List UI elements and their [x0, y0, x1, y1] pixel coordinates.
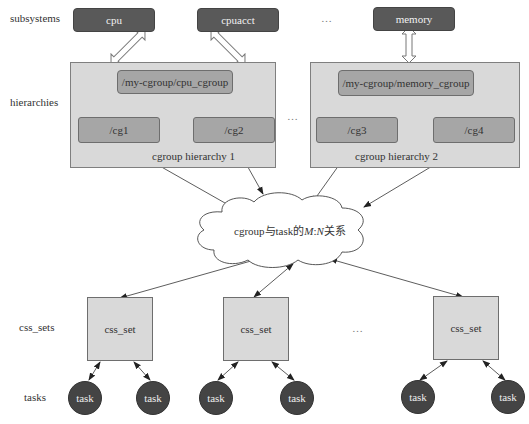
cloud-label-suffix: 关系 [324, 225, 346, 237]
cgroup-cg4[interactable]: /cg4 [433, 117, 515, 143]
hierarchy-2-label: cgroup hierarchy 2 [355, 150, 438, 162]
task-2[interactable]: task [136, 381, 170, 415]
cloud-label-n: N [317, 225, 324, 237]
row-label-tasks: tasks [24, 391, 46, 403]
css-set-3[interactable]: css_set [433, 296, 499, 360]
subsystems-ellipsis: … [321, 12, 333, 24]
css-sets-ellipsis: … [352, 322, 364, 334]
subsystem-memory[interactable]: memory [373, 7, 455, 31]
hierarchy-1-root[interactable]: /my-cgroup/cpu_cgroup [117, 70, 233, 94]
css-set-2[interactable]: css_set [223, 297, 289, 361]
hierarchies-ellipsis: … [287, 110, 299, 122]
task-5[interactable]: task [401, 380, 435, 414]
task-1[interactable]: task [68, 381, 102, 415]
css-task-links [89, 361, 505, 380]
cgroup-cg1[interactable]: /cg1 [78, 117, 160, 143]
row-label-css-sets: css_sets [19, 321, 54, 333]
hierarchy-2-root[interactable]: /my-cgroup/memory_cgroup [338, 70, 474, 96]
row-label-subsystems: subsystems [10, 12, 60, 24]
cgroup-cg3[interactable]: /cg3 [316, 117, 398, 143]
task-4[interactable]: task [280, 381, 314, 415]
subsystem-cpuacct[interactable]: cpuacct [197, 8, 279, 32]
css-set-1[interactable]: css_set [87, 297, 153, 361]
cloud-label-prefix: cgroup与task的 [234, 225, 304, 237]
subsystem-cpu[interactable]: cpu [73, 8, 155, 32]
row-label-hierarchies: hierarchies [10, 96, 58, 108]
hierarchy-1-label: cgroup hierarchy 1 [152, 150, 235, 162]
cgroup-cg2[interactable]: /cg2 [193, 117, 275, 143]
task-3[interactable]: task [199, 381, 233, 415]
task-6[interactable]: task [491, 380, 525, 414]
cloud-label: cgroup与task的M:N关系 [234, 222, 346, 238]
